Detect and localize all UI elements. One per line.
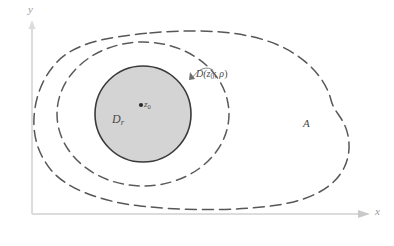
math-figure-nested-disks: y x A Dr z0 D(z0; ρ) — [0, 0, 394, 246]
y-axis-arrowhead — [29, 20, 36, 29]
middle-label-D: D( — [196, 68, 207, 79]
center-point-dot — [139, 103, 143, 107]
outer-region-label-A: A — [303, 118, 310, 129]
outer-region-boundary-A — [34, 31, 349, 210]
axes-group — [29, 20, 371, 218]
inner-disk-label-subscript: r — [121, 117, 124, 127]
inner-disk-label-Dr: Dr — [112, 113, 124, 127]
x-axis-arrowhead — [358, 210, 370, 218]
inner-disk-label-main: D — [112, 112, 121, 126]
center-point-label-z0: z0 — [144, 100, 151, 110]
middle-label-close-paren: ) — [224, 68, 227, 79]
middle-disk-label-D-z0-rho: D(z0; ρ) — [196, 69, 228, 81]
y-axis-label: y — [28, 4, 33, 15]
center-point-label-subscript: 0 — [148, 103, 151, 110]
x-axis-label: x — [375, 206, 380, 217]
figure-canvas — [0, 0, 394, 246]
inner-disk-Dr — [95, 66, 191, 162]
